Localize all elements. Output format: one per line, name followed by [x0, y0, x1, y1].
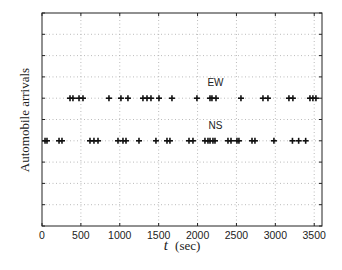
data-point: [136, 138, 142, 144]
data-point: [123, 138, 129, 144]
data-point: [252, 138, 258, 144]
data-point: [213, 95, 219, 101]
data-point: [296, 138, 302, 144]
data-point: [190, 138, 196, 144]
data-point: [118, 95, 124, 101]
data-point: [148, 95, 154, 101]
data-point: [153, 138, 159, 144]
data-point: [303, 138, 309, 144]
annotations: EWNS: [207, 77, 224, 131]
series-label-ns: NS: [208, 120, 222, 131]
data-point: [265, 95, 271, 101]
data-point: [80, 95, 86, 101]
data-point: [290, 95, 296, 101]
x-tick-label: 2500: [225, 229, 249, 241]
data-point: [167, 138, 173, 144]
x-axis-label: t (sec): [164, 237, 201, 253]
data-point: [169, 95, 175, 101]
y-axis-label: Automobile arrivals: [17, 68, 32, 172]
arrivals-chart: 0500100015002000250030003500 EWNS t (sec…: [0, 0, 342, 270]
x-tick-label: 3500: [303, 229, 327, 241]
x-axis-variable: t: [164, 237, 169, 253]
x-tick-label: 1000: [108, 229, 132, 241]
x-tick-label: 500: [72, 229, 90, 241]
data-point: [106, 95, 112, 101]
grid: [42, 13, 322, 226]
data-point: [289, 138, 295, 144]
data-point: [271, 138, 277, 144]
data-point: [194, 95, 200, 101]
data-point: [125, 95, 131, 101]
data-point: [70, 95, 76, 101]
x-tick-label: 0: [39, 229, 45, 241]
data-point: [95, 138, 101, 144]
data-point: [228, 138, 234, 144]
data-point: [238, 95, 244, 101]
data-point: [313, 95, 319, 101]
series-label-ew: EW: [207, 77, 224, 88]
data-point: [156, 95, 162, 101]
x-axis-unit: (sec): [175, 238, 200, 253]
data-point: [59, 138, 65, 144]
x-tick-label: 3000: [264, 229, 288, 241]
